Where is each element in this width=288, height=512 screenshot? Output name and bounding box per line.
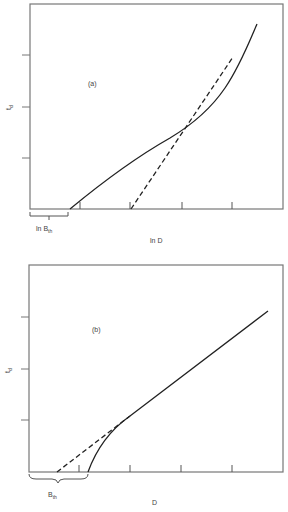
panel-a-y-label: td — [5, 105, 14, 110]
panel-a-x-label: ln D — [150, 237, 162, 244]
panel-b-y-label: td — [4, 368, 13, 373]
panel-b-tag: (b) — [92, 326, 101, 334]
panel-b-x-label: D — [152, 499, 157, 506]
panel-a-threshold-label: ln Bth — [36, 225, 52, 234]
panel-a-threshold-bracket — [30, 212, 68, 220]
panel-b-x-ticks — [79, 465, 232, 472]
figure: (a) ln D ln Bth td (b) D Bth td — [0, 0, 288, 512]
panel-b-solid-curve — [88, 311, 268, 472]
panel-a-y-ticks — [22, 55, 30, 158]
panel-a-tag: (a) — [88, 80, 97, 88]
panel-a: (a) ln D ln Bth td — [5, 4, 283, 244]
panel-a-dashed-line — [131, 57, 233, 209]
panel-a-frame — [30, 4, 283, 209]
panel-b-threshold-label: Bth — [48, 491, 57, 500]
panel-b-threshold-brace — [29, 474, 88, 483]
panel-a-x-ticks — [80, 202, 232, 209]
panel-b-frame — [29, 265, 283, 472]
panel-a-solid-curve — [70, 24, 257, 209]
panel-b: (b) D Bth td — [4, 265, 283, 506]
panel-b-y-ticks — [21, 317, 29, 420]
